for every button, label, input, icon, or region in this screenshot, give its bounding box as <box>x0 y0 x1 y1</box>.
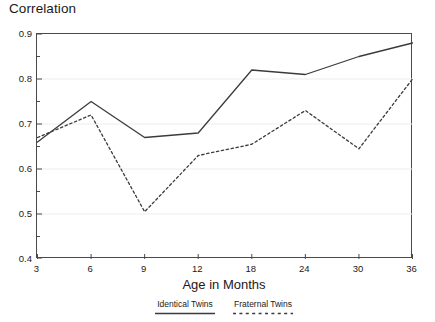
legend-entry-1[interactable]: Identical Twins <box>154 299 216 316</box>
x-axis-tick-label: 24 <box>299 263 310 274</box>
y-axis-tick-labels: 0.40.50.60.70.80.9 <box>0 0 435 322</box>
x-axis-tick-label: 3 <box>34 263 39 274</box>
legend-entry-2[interactable]: Fraternal Twins <box>232 299 294 316</box>
y-axis-tick-label: 0.7 <box>6 118 32 129</box>
y-axis-tick-label: 0.6 <box>6 163 32 174</box>
y-axis-tick-label: 0.9 <box>6 28 32 39</box>
x-axis-tick-label: 36 <box>406 263 417 274</box>
legend-label: Fraternal Twins <box>234 299 292 309</box>
legend-dashed-line-icon <box>232 311 294 316</box>
legend-solid-line-icon <box>154 311 216 316</box>
x-axis-tick-label: 6 <box>87 263 92 274</box>
x-axis-tick-label: 9 <box>141 263 146 274</box>
x-axis-title: Age in Months <box>36 277 412 292</box>
x-axis-tick-label: 12 <box>192 263 203 274</box>
y-axis-tick-label: 0.5 <box>6 208 32 219</box>
y-axis-tick-label: 0.8 <box>6 73 32 84</box>
legend-label: Identical Twins <box>157 299 213 309</box>
x-axis-tick-label: 18 <box>245 263 256 274</box>
x-axis-tick-label: 30 <box>353 263 364 274</box>
correlation-line-chart: Correlation 0.40.50.60.70.80.9 369121824… <box>0 0 435 322</box>
y-axis-tick-label: 0.4 <box>6 253 32 264</box>
chart-legend: Identical TwinsFraternal Twins <box>36 299 412 316</box>
